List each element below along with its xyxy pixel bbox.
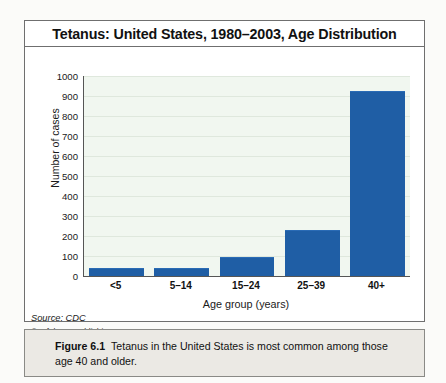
figure-caption-box: Figure 6.1Tetanus in the United States i…: [24, 329, 425, 377]
y-axis-tick-label: 200: [62, 231, 78, 242]
bar-25–39: [285, 230, 340, 276]
y-axis-tick-label: 600: [62, 151, 78, 162]
y-axis-tick-label: 500: [62, 171, 78, 182]
bar-5–14: [154, 268, 209, 276]
bar-slot: [84, 76, 149, 276]
y-axis-tick-label: 400: [62, 191, 78, 202]
x-axis-tick-label: 25–39: [279, 280, 344, 291]
y-axis-tick-labels: 01002003004005006007008009001000: [51, 76, 81, 276]
bar-slot: [214, 76, 279, 276]
figure-root: Tetanus: United States, 1980–2003, Age D…: [0, 0, 446, 383]
x-axis-tick-labels: <55–1415–2425–3940+: [83, 280, 409, 291]
x-axis-tick-label: 40+: [344, 280, 409, 291]
x-axis-tick-label: 15–24: [213, 280, 278, 291]
figure-caption-label: Figure 6.1: [55, 340, 105, 352]
x-axis-tick-label: <5: [83, 280, 148, 291]
chart-container: Tetanus: United States, 1980–2003, Age D…: [24, 20, 425, 322]
y-axis-tick-label: 800: [62, 111, 78, 122]
bar-slot: [149, 76, 214, 276]
y-axis-tick-label: 700: [62, 131, 78, 142]
x-axis-title: Age group (years): [83, 298, 409, 310]
source-note: Source: CDC: [31, 313, 86, 323]
chart-title-bar: Tetanus: United States, 1980–2003, Age D…: [25, 21, 424, 47]
figure-caption-text: Figure 6.1Tetanus in the United States i…: [55, 339, 402, 368]
bars-layer: [84, 76, 410, 276]
y-axis-tick-label: 100: [62, 251, 78, 262]
chart-title: Tetanus: United States, 1980–2003, Age D…: [52, 26, 396, 42]
plot-area: [83, 76, 410, 277]
bar-40+: [350, 91, 405, 276]
y-axis-tick-label: 300: [62, 211, 78, 222]
bar-<5: [89, 268, 144, 276]
x-axis-tick-label: 5–14: [148, 280, 213, 291]
bar-slot: [280, 76, 345, 276]
y-axis-tick-label: 900: [62, 91, 78, 102]
bar-slot: [345, 76, 410, 276]
y-axis-tick-label: 0: [73, 271, 78, 282]
bar-15–24: [220, 257, 275, 276]
plot-wrapper: Number of cases 010020030040050060070080…: [25, 47, 424, 321]
y-axis-tick-label: 1000: [57, 71, 78, 82]
